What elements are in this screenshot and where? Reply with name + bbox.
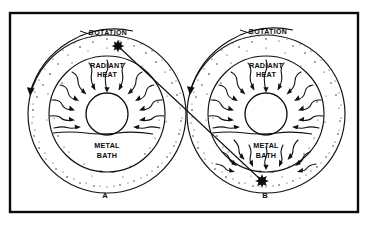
- panel-a-metal-bath-label-2: BATH: [97, 151, 117, 160]
- panel-a-molten-core: [86, 93, 128, 135]
- panel-a-radiant-heat-label-1: RADIANT: [90, 61, 124, 70]
- panel-b-radiant-heat-label-2: HEAT: [256, 70, 276, 79]
- panel-b-radiant-heat-label-1: RADIANT: [249, 61, 283, 70]
- panel-a-radiant-heat-label-2: HEAT: [97, 70, 117, 79]
- panel-a-rotation-label: ROTATION: [89, 29, 127, 36]
- panel-b-metal-bath-label-1: METAL: [253, 141, 279, 150]
- panel-b-molten-core: [245, 93, 287, 135]
- figure-root: ROTATION RADIANT HEAT METAL BATH A: [0, 0, 372, 227]
- panel-b-rotation-label: ROTATION: [249, 28, 287, 35]
- panel-b-caption: B: [262, 191, 268, 200]
- furnace-diagram-svg: ROTATION RADIANT HEAT METAL BATH A: [0, 0, 372, 227]
- panel-a-caption: A: [102, 191, 108, 200]
- panel-a-metal-bath-label-1: METAL: [94, 141, 120, 150]
- panel-b-metal-bath-label-2: BATH: [256, 151, 276, 160]
